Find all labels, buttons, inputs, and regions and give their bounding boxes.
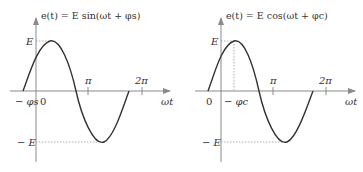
cosine-negE-label: − E xyxy=(202,137,222,148)
cosine-E-label: E xyxy=(210,36,219,47)
cosine-curve xyxy=(208,41,313,143)
cosine-title: e(t) = E cos(ωt + φc) xyxy=(226,10,328,21)
sine-origin-label: 0 xyxy=(40,96,46,107)
sine-2pi-label: 2π xyxy=(134,75,148,86)
cosine-origin-label: 0 xyxy=(206,96,212,107)
cosine-2pi-label: 2π xyxy=(318,75,332,86)
cosine-panel: e(t) = E cos(ωt + φc) E − E 0 − φc π 2π … xyxy=(195,10,358,162)
cosine-x-axis-label: ωt xyxy=(345,96,358,107)
sine-negE-label: − E xyxy=(17,137,37,148)
sine-x-axis-label: ωt xyxy=(161,96,174,107)
cosine-phase-label: − φc xyxy=(224,96,249,107)
sine-E-label: E xyxy=(25,36,34,47)
cosine-pi-label: π xyxy=(269,75,277,86)
sine-title: e(t) = E sin(ωt + φs) xyxy=(41,10,140,21)
sine-curve xyxy=(23,41,129,143)
sine-phase-label: − φs xyxy=(15,96,39,107)
sine-pi-label: π xyxy=(84,75,92,86)
sine-panel: e(t) = E sin(ωt + φs) E − E − φs 0 π 2π … xyxy=(10,10,174,162)
figure-canvas: e(t) = E sin(ωt + φs) E − E − φs 0 π 2π … xyxy=(0,0,363,172)
